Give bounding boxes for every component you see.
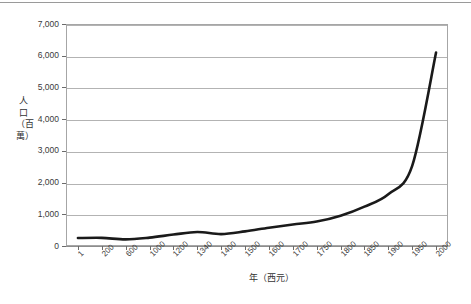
y-tick-label-1000: 1,000 [38, 210, 59, 219]
data-series-line [66, 24, 448, 246]
y-tick-label-2000: 2,000 [38, 178, 59, 187]
y-tick-label-6000: 6,000 [38, 51, 59, 60]
y-tick-label-3000: 3,000 [38, 146, 59, 155]
y-tick-label-4000: 4,000 [38, 115, 59, 124]
y-tick-label-7000: 7,000 [38, 20, 59, 29]
x-tick-label-1: 1 [76, 249, 86, 259]
y-axis-title: 人口（百萬） [16, 96, 30, 142]
y-tick-label-5000: 5,000 [38, 83, 59, 92]
y-tick-label-0: 0 [54, 242, 59, 251]
y-axis-tick-labels: 7,000 6,000 5,000 4,000 3,000 2,000 1,00… [0, 0, 59, 304]
x-axis-title: 年（西元） [249, 271, 294, 284]
population-line-chart: 7,000 6,000 5,000 4,000 3,000 2,000 1,00… [0, 0, 471, 304]
series-path-world-population [78, 53, 436, 240]
